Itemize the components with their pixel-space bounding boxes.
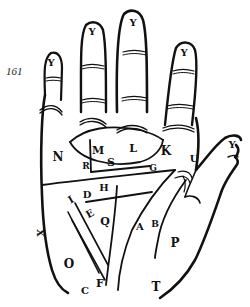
label-d: D <box>83 190 92 200</box>
label-p: P <box>170 237 179 249</box>
label-x: X <box>35 229 45 237</box>
label-t: T <box>152 281 161 293</box>
label-y-index: Y <box>47 58 54 68</box>
label-s: S <box>107 157 115 168</box>
label-k: K <box>161 145 171 157</box>
label-y-middle: Y <box>129 18 136 28</box>
label-l: L <box>129 143 137 154</box>
hand-drawing <box>0 0 250 307</box>
label-b: B <box>151 220 159 229</box>
label-y-second: Y <box>88 27 95 37</box>
label-y-ring: Y <box>180 48 187 58</box>
label-y-thumb: Y <box>228 140 235 150</box>
label-m: M <box>92 145 104 156</box>
label-g: G <box>149 164 157 173</box>
label-f: F <box>96 278 104 289</box>
label-c: C <box>81 286 89 296</box>
label-u: U <box>190 154 199 164</box>
label-q: Q <box>100 216 110 227</box>
label-h: H <box>99 183 108 193</box>
palmistry-hand-illustration: 161 <box>0 0 250 307</box>
label-n: N <box>53 151 64 163</box>
label-a: A <box>136 222 144 232</box>
label-r: R <box>82 162 89 171</box>
label-o: O <box>64 258 74 270</box>
